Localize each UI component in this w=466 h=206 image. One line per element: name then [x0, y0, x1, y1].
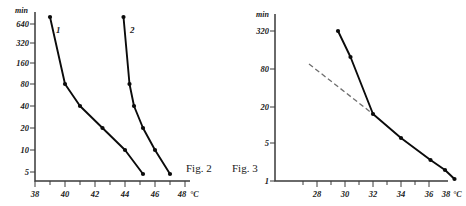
- fig2-series-2: 2: [121, 15, 172, 176]
- figure-2-caption: Fig. 2: [186, 162, 212, 174]
- fig2-curve-2-point: [168, 172, 172, 176]
- fig3-y-tick-20: 20: [260, 102, 270, 112]
- figure-3: min 320 80 20 5 1 28 30 32 34 36 38 °C: [233, 0, 466, 206]
- fig2-x-tick-46: 46: [150, 189, 160, 199]
- fig3-y-tick-1: 1: [265, 176, 269, 186]
- fig2-curve-1-line: [50, 17, 143, 174]
- fig2-y-tick-320: 320: [15, 38, 30, 48]
- figure-2: min 640 320 160 80 40 20 10 5 38 40 42 4…: [0, 0, 233, 206]
- fig3-curve-point: [443, 168, 447, 172]
- fig3-curve-point: [336, 29, 340, 33]
- fig2-curve-1-point: [78, 104, 82, 108]
- fig3-x-tick-34: 34: [396, 189, 406, 199]
- fig2-curve-1-point: [48, 15, 52, 19]
- fig3-axes: [275, 14, 448, 181]
- fig3-curve-line: [338, 31, 455, 179]
- fig2-x-tick-48: 48: [177, 189, 187, 199]
- fig2-curve-2-point: [141, 126, 145, 130]
- fig3-y-tick-80: 80: [261, 64, 270, 74]
- fig3-curve-point: [428, 158, 432, 162]
- fig2-y-tick-20: 20: [20, 123, 30, 133]
- fig2-curve-1-point: [100, 126, 104, 130]
- fig2-curve-2-point: [153, 148, 157, 152]
- fig2-plot: min 640 320 160 80 40 20 10 5 38 40 42 4…: [0, 0, 233, 206]
- fig3-x-tick-36: 36: [424, 189, 434, 199]
- fig3-x-tick-38: 38: [441, 189, 451, 199]
- fig3-x-tick-28: 28: [312, 189, 322, 199]
- fig2-x-tick-42: 42: [90, 189, 100, 199]
- fig2-curve-2-point: [121, 15, 125, 19]
- fig2-curve-label-2: 2: [129, 25, 135, 35]
- fig2-curve-1-point: [123, 148, 127, 152]
- figure-3-caption: Fig. 3: [232, 162, 258, 174]
- fig3-x-ticks: [303, 181, 429, 187]
- fig3-y-tick-5: 5: [265, 138, 270, 148]
- fig2-y-tick-160: 160: [16, 58, 30, 68]
- fig2-y-tick-640: 640: [16, 19, 30, 29]
- fig3-curve-point: [348, 55, 352, 59]
- fig2-y-tick-10: 10: [21, 145, 30, 155]
- fig3-x-tick-30: 30: [340, 189, 350, 199]
- fig2-curve-1-point: [63, 82, 67, 86]
- fig2-x-tick-44: 44: [120, 189, 130, 199]
- fig2-y-unit: min: [15, 6, 28, 15]
- fig2-y-tick-40: 40: [20, 101, 30, 111]
- fig2-axes: [35, 12, 190, 181]
- fig3-x-tick-32: 32: [368, 189, 378, 199]
- fig3-curve-point: [399, 136, 403, 140]
- fig3-curve-point: [371, 112, 375, 116]
- fig3-plot: min 320 80 20 5 1 28 30 32 34 36 38 °C: [233, 0, 466, 206]
- fig2-x-tick-40: 40: [60, 189, 70, 199]
- fig3-y-unit: min: [256, 10, 269, 19]
- fig3-y-tick-320: 320: [255, 26, 270, 36]
- fig3-series-main: [336, 29, 457, 181]
- fig2-curve-1-point: [141, 172, 145, 176]
- fig3-x-unit: °C: [453, 190, 462, 199]
- fig2-curve-2-point: [132, 104, 136, 108]
- fig2-curve-2-line: [124, 17, 171, 174]
- fig2-curve-label-1: 1: [56, 25, 61, 35]
- fig2-x-ticks: [35, 181, 185, 187]
- fig2-x-unit: °C: [190, 190, 199, 199]
- fig2-series-1: 1: [48, 15, 145, 176]
- fig2-y-tick-5: 5: [25, 167, 30, 177]
- fig2-x-tick-38: 38: [30, 189, 40, 199]
- fig2-y-tick-80: 80: [21, 79, 30, 89]
- fig3-curve-point: [452, 177, 456, 181]
- fig2-curve-2-point: [127, 82, 131, 86]
